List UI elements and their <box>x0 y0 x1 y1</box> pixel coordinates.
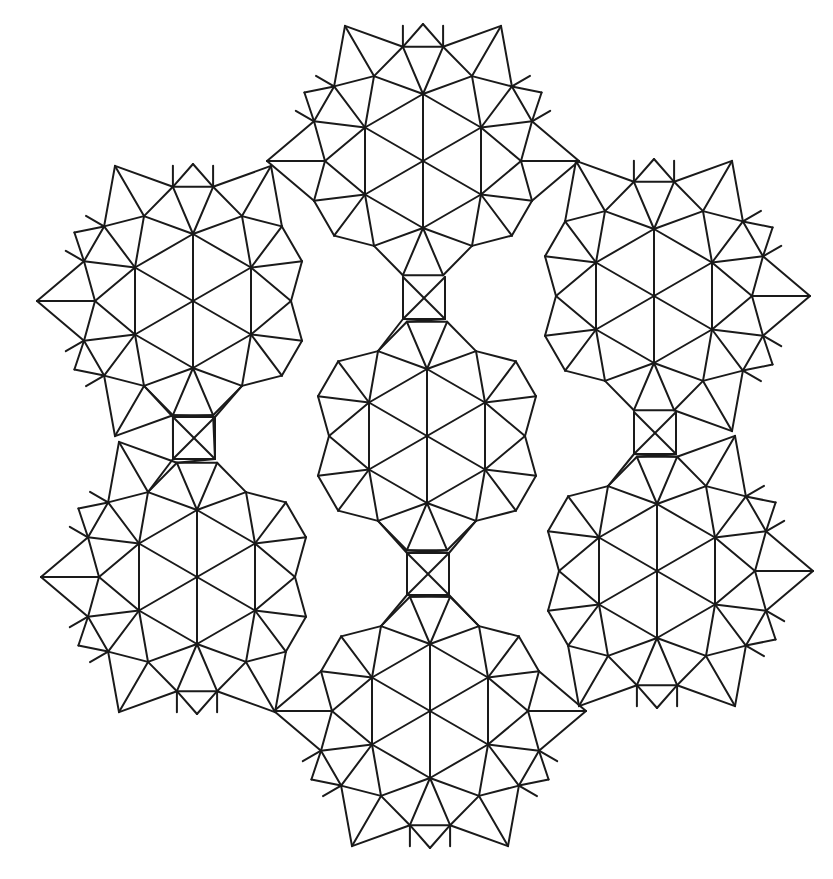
flank-edge <box>485 470 516 511</box>
corner-edge <box>443 26 501 47</box>
rosette-hex-edge <box>139 510 197 544</box>
rosette-hex-edge <box>365 195 423 229</box>
flank-edge <box>488 745 539 751</box>
mid-edge <box>525 396 536 436</box>
flank-edge <box>108 502 139 543</box>
mid-edge <box>476 511 516 521</box>
tip-edge <box>74 370 104 376</box>
corner-edge <box>345 26 403 47</box>
flank-edge <box>712 330 743 371</box>
flank-edge <box>314 121 365 127</box>
flank-edge <box>488 636 519 677</box>
mid-edge <box>381 796 410 825</box>
corner-edge <box>267 121 314 161</box>
flank-base-edge <box>512 201 532 236</box>
mid-edge <box>135 216 144 267</box>
mid-edge <box>479 626 519 636</box>
mid-edge <box>251 268 291 302</box>
flank-edge <box>84 261 135 267</box>
mid-edge <box>242 216 251 267</box>
tiling-svg <box>0 0 833 879</box>
mid-edge <box>599 605 608 656</box>
spike-edge <box>316 76 334 87</box>
tiling-edges <box>37 24 813 848</box>
tip-edge <box>746 496 776 502</box>
mid-edge <box>95 268 135 302</box>
flank-edge <box>88 611 139 617</box>
spike-edge <box>90 652 108 663</box>
tip-edge <box>304 86 334 92</box>
mid-edge <box>605 182 634 211</box>
tip-edge <box>193 164 213 187</box>
flank-edge <box>251 335 282 376</box>
flank-base-edge <box>746 496 766 531</box>
mid-edge <box>712 296 752 330</box>
tip-edge <box>654 159 674 182</box>
rosette-spoke <box>423 161 481 195</box>
mid-edge <box>565 211 605 221</box>
rosette-hex-edge <box>596 229 654 263</box>
rosette-spoke <box>365 161 423 195</box>
corner-edge <box>271 166 282 227</box>
mid-edge <box>291 261 302 301</box>
x-square-link <box>449 595 479 626</box>
flank-base-edge <box>743 221 763 256</box>
x-square-link <box>148 459 173 492</box>
flank-base-edge <box>519 636 539 671</box>
corner-edge <box>732 371 743 432</box>
corner-edge <box>213 166 271 187</box>
rosette-spoke <box>139 577 197 611</box>
flank-base-edge <box>88 617 108 652</box>
mid-edge <box>88 537 99 577</box>
mid-edge <box>255 544 295 578</box>
flank-edge <box>712 330 763 336</box>
rosette-spoke <box>135 301 193 335</box>
flank-edge <box>715 605 746 646</box>
tip-edge <box>430 825 450 848</box>
corner-edge <box>766 531 813 571</box>
tip-edge <box>78 502 108 508</box>
mid-edge <box>135 335 144 386</box>
tip-edge <box>743 221 773 227</box>
mid-edge <box>108 492 148 502</box>
mid-edge <box>525 436 536 476</box>
rosette-spoke <box>599 571 657 605</box>
flank-edge <box>255 502 286 543</box>
corner-edge <box>242 166 271 216</box>
flank-edge <box>318 470 369 476</box>
mid-edge <box>369 351 378 402</box>
mid-edge <box>476 351 485 402</box>
tip-edge <box>177 691 197 714</box>
corner-edge <box>674 410 732 431</box>
rosette-spoke <box>654 296 712 330</box>
mid-edge <box>251 301 291 335</box>
mid-edge <box>443 47 472 76</box>
mid-edge <box>246 492 286 502</box>
flank-base-edge <box>318 476 338 511</box>
mid-edge <box>148 662 177 691</box>
rosette-hex-edge <box>654 229 712 263</box>
flank-edge <box>715 531 766 537</box>
mid-edge <box>674 381 703 410</box>
flank-edge <box>334 195 365 236</box>
corner-edge <box>450 825 508 846</box>
mid-edge <box>596 330 605 381</box>
mid-edge <box>334 236 374 246</box>
rosette-hex-edge <box>423 195 481 229</box>
mid-edge <box>568 646 608 656</box>
mid-edge <box>703 211 712 262</box>
flank-base-edge <box>88 502 108 537</box>
corner-edge <box>576 161 634 182</box>
corner-edge <box>579 656 608 706</box>
mid-edge <box>325 128 365 162</box>
mid-edge <box>565 371 605 381</box>
rosette-spoke <box>596 296 654 330</box>
mid-edge <box>472 76 512 86</box>
corner-edge <box>735 436 746 497</box>
mid-edge <box>104 376 144 386</box>
flank-base-edge <box>314 201 334 236</box>
mid-edge <box>365 76 374 127</box>
flank-base-edge <box>519 751 539 786</box>
flank-base-edge <box>84 226 104 261</box>
corner-edge <box>217 691 275 712</box>
